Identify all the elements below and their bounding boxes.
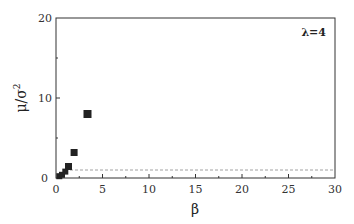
plot-frame xyxy=(56,18,335,178)
x-ticks xyxy=(79,174,312,178)
x-tick-labels: 0 5 10 15 20 25 30 xyxy=(53,183,343,196)
data-point xyxy=(71,149,78,156)
data-points xyxy=(56,110,91,179)
svg-text:25: 25 xyxy=(282,183,296,196)
svg-text:20: 20 xyxy=(235,183,249,196)
y-ticks xyxy=(56,58,60,138)
svg-text:5: 5 xyxy=(99,183,106,196)
data-point xyxy=(84,110,92,118)
x-axis-label: β xyxy=(191,201,199,217)
svg-text:10: 10 xyxy=(38,92,52,105)
data-point xyxy=(65,163,72,170)
svg-text:15: 15 xyxy=(189,183,203,196)
chart: 0 5 10 15 20 25 30 0 10 20 β μ/σ2 λ=4 xyxy=(0,0,354,224)
svg-text:20: 20 xyxy=(38,12,52,25)
y-axis-label: μ/σ2 xyxy=(12,83,29,112)
svg-text:0: 0 xyxy=(41,172,48,185)
svg-text:0: 0 xyxy=(53,183,60,196)
svg-text:10: 10 xyxy=(142,183,156,196)
y-tick-labels: 0 10 20 xyxy=(38,12,52,185)
lambda-annotation: λ=4 xyxy=(301,26,326,39)
svg-text:30: 30 xyxy=(328,183,342,196)
